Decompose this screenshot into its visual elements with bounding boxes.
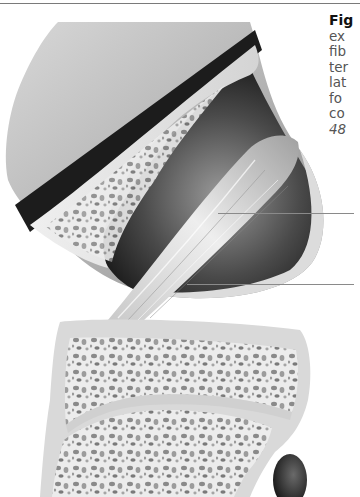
- caption-line-2: fib: [329, 44, 360, 60]
- fibula-head: [273, 454, 307, 497]
- caption-reference: 48: [329, 122, 360, 138]
- leader-line-1: [218, 213, 354, 214]
- caption-line-1: ex: [329, 29, 360, 45]
- caption-line-5: fo: [329, 91, 360, 107]
- caption-line-4: lat: [329, 75, 360, 91]
- caption-line-3: ter: [329, 60, 360, 76]
- leader-line-2: [187, 284, 354, 285]
- caption-line-6: co: [329, 106, 360, 122]
- figure-caption: Fig ex fib ter lat fo co 48: [329, 13, 360, 137]
- caption-label: Fig: [329, 13, 360, 29]
- tibia: [40, 320, 310, 497]
- knee-illustration: [0, 0, 360, 497]
